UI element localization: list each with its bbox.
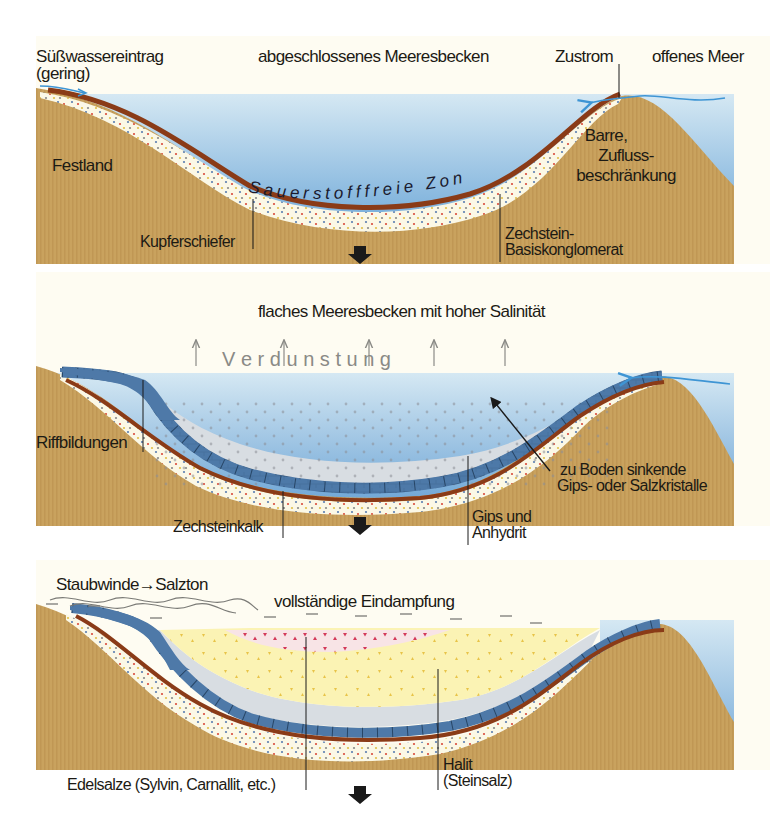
label-barrier-3: beschränkung — [576, 166, 676, 185]
panel-stage-2: V e r d u n s t u n g flaches Meeresbeck… — [36, 272, 770, 545]
zechstein-diagram: Süßwassereintrag (gering) abgeschlossene… — [0, 0, 770, 829]
label-sinking-crystals-2: Gips- oder Salzkristalle — [557, 477, 708, 494]
panel-stage-1: Süßwassereintrag (gering) abgeschlossene… — [0, 0, 770, 264]
label-limestone: Zechsteinkalk — [173, 518, 265, 535]
label-gypsum-2: Anhydrit — [472, 524, 527, 541]
label-halite: Halit — [443, 756, 473, 773]
panel-title: vollständige Eindampfung — [274, 592, 454, 611]
label-potash-salts: Edelsalze (Sylvin, Carnallit, etc.) — [67, 776, 276, 793]
label-barrier: Barre, — [585, 126, 628, 145]
label-freshwater-amount: (gering) — [36, 64, 90, 83]
label-kupferschiefer: Kupferschiefer — [140, 233, 236, 250]
label-evaporation: V e r d u n s t u n g — [222, 348, 391, 370]
label-gypsum: Gips und — [472, 508, 531, 525]
label-reef: Riffbildungen — [36, 433, 127, 452]
panel-stage-3: Staubwinde→Salzton vollständige Eindampf… — [36, 560, 770, 804]
label-barrier-2: Zufluss- — [598, 146, 654, 165]
label-conglomerate-2: Basiskonglomerat — [505, 241, 624, 258]
label-mainland: Festland — [52, 156, 113, 175]
label-open-sea: offenes Meer — [652, 47, 745, 66]
down-arrow-icon — [348, 786, 372, 804]
panel-title: flaches Meeresbecken mit hoher Salinität — [258, 302, 546, 321]
label-sinking-crystals: zu Boden sinkende — [560, 461, 687, 478]
label-dust-winds: Staubwinde→Salzton — [56, 575, 208, 594]
label-halite-2: (Steinsalz) — [443, 772, 512, 789]
label-conglomerate: Zechstein- — [505, 225, 574, 242]
panel-title: abgeschlossenes Meeresbecken — [258, 47, 489, 66]
label-inflow: Zustrom — [555, 47, 614, 66]
